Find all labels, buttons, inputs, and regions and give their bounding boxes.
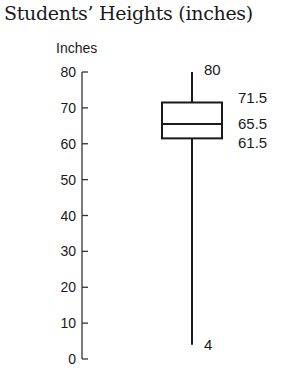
y-axis-label: Inches [56,40,97,56]
q3-value-label: 71.5 [238,89,267,106]
y-tick-label: 70 [60,100,76,116]
y-tick-label: 30 [60,243,76,259]
min-value-label: 4 [204,336,212,353]
max-value-label: 80 [204,61,221,78]
y-tick-label: 10 [60,315,76,331]
y-tick-label: 20 [60,279,76,295]
y-tick-label: 60 [60,136,76,152]
box-plot-chart: Inches010203040506070808071.565.561.54 [0,0,294,377]
y-tick-label: 40 [60,208,76,224]
y-tick-label: 80 [60,64,76,80]
y-tick-label: 0 [68,351,76,367]
y-tick-label: 50 [60,172,76,188]
median-value-label: 65.5 [238,115,267,132]
interquartile-box [162,102,222,138]
q1-value-label: 61.5 [238,134,267,151]
